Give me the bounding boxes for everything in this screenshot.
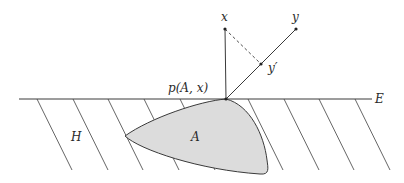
label-x: x	[221, 11, 228, 23]
segment-p-to-x	[225, 29, 226, 99]
point-x	[223, 27, 226, 30]
point-p	[224, 97, 227, 100]
label-y-prime: y′	[268, 62, 278, 74]
label-p-A-x: p(A, x)	[168, 82, 208, 94]
projection-dashed-x-to-y-prime	[225, 29, 261, 64]
point-y-prime	[259, 62, 262, 65]
label-A: A	[191, 131, 200, 143]
label-E: E	[375, 93, 384, 105]
label-H: H	[71, 131, 81, 143]
label-y: y	[292, 11, 299, 23]
point-y	[294, 27, 297, 30]
